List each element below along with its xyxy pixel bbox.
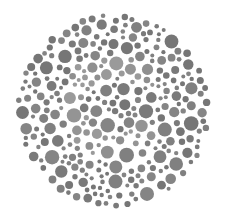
- plate-dot: [39, 158, 43, 162]
- plate-dot: [119, 148, 134, 163]
- plate-dot: [186, 135, 193, 142]
- plate-dot: [67, 108, 81, 122]
- plate-dot: [181, 108, 186, 113]
- plate-dot: [69, 73, 76, 80]
- plate-dot: [77, 78, 81, 82]
- plate-dot: [95, 200, 101, 206]
- plate-dot: [169, 107, 179, 117]
- plate-dot: [92, 129, 102, 139]
- plate-dot: [96, 96, 101, 101]
- plate-dot: [117, 83, 129, 95]
- plate-dot: [122, 173, 127, 178]
- plate-dot: [67, 161, 72, 166]
- plate-dot: [98, 46, 102, 50]
- plate-dot: [121, 42, 133, 54]
- plate-dot: [169, 157, 183, 171]
- plate-dot: [184, 116, 199, 131]
- plate-dot: [86, 142, 94, 150]
- plate-dot: [159, 96, 163, 100]
- plate-dot: [55, 77, 59, 81]
- plate-dot: [154, 146, 158, 150]
- plate-dot: [198, 91, 204, 97]
- plate-dot: [78, 38, 88, 48]
- plate-dot: [39, 114, 48, 123]
- plate-dot: [161, 50, 165, 54]
- plate-dot: [202, 85, 208, 91]
- plate-dot: [171, 78, 177, 84]
- plate-dot: [183, 59, 193, 69]
- plate-dot: [180, 81, 185, 86]
- plate-dot: [113, 18, 119, 24]
- plate-dot: [195, 145, 200, 150]
- plate-dot: [91, 185, 96, 190]
- plate-dot: [162, 144, 167, 149]
- plate-dot: [109, 39, 119, 49]
- plate-dot: [134, 87, 142, 95]
- plate-dot: [100, 180, 105, 185]
- plate-dot: [154, 150, 167, 163]
- plate-dot: [144, 49, 149, 54]
- plate-dot: [101, 69, 112, 80]
- plate-dot: [162, 28, 166, 32]
- plate-dot: [44, 123, 55, 134]
- plate-dot: [31, 115, 35, 119]
- plate-dot: [42, 51, 47, 56]
- plate-dot: [16, 106, 29, 119]
- plate-dot: [29, 152, 39, 162]
- plate-dot: [165, 174, 176, 185]
- plate-dot: [134, 42, 140, 48]
- plate-dot: [172, 91, 182, 101]
- plate-dot: [67, 134, 71, 138]
- plate-dot: [65, 181, 73, 189]
- plate-dot: [189, 160, 194, 165]
- plate-dot: [78, 152, 83, 157]
- plate-dot: [36, 145, 40, 149]
- plate-dot: [91, 151, 95, 155]
- plate-dot: [113, 203, 119, 209]
- plate-dot: [129, 191, 134, 196]
- plate-dot: [80, 104, 89, 113]
- plate-dot: [75, 32, 80, 37]
- plate-dot: [164, 95, 168, 99]
- plate-dot: [125, 183, 129, 187]
- plate-dot: [115, 77, 119, 81]
- plate-dot: [49, 36, 56, 43]
- plate-dot: [112, 83, 117, 88]
- plate-dot: [111, 135, 115, 139]
- plate-dot: [79, 178, 88, 187]
- plate-dot: [157, 67, 163, 73]
- plate-dot: [171, 66, 179, 74]
- plate-dot: [130, 80, 135, 85]
- plate-dot: [97, 143, 101, 147]
- plate-dot: [57, 98, 62, 103]
- plate-dot: [143, 37, 148, 42]
- plate-dot: [75, 64, 82, 71]
- plate-dot: [194, 153, 199, 158]
- plate-dot: [55, 165, 67, 177]
- plate-dot: [203, 125, 209, 131]
- plate-dot: [73, 82, 77, 86]
- plate-dot: [80, 168, 85, 173]
- plate-dot: [175, 86, 180, 91]
- color-vision-plate: [0, 0, 225, 223]
- plate-dot: [52, 135, 64, 147]
- plate-dot: [144, 77, 151, 84]
- plate-dot: [157, 181, 166, 190]
- plate-dot: [45, 76, 50, 81]
- plate-dot: [166, 149, 171, 154]
- plate-dot: [166, 137, 175, 146]
- plate-dot: [49, 176, 57, 184]
- plate-dot: [103, 135, 108, 140]
- plate-dot: [129, 33, 137, 41]
- plate-dot: [158, 123, 172, 137]
- plate-dot: [129, 129, 133, 133]
- plate-dot: [121, 35, 125, 39]
- plate-dot: [34, 127, 39, 132]
- plate-dot: [33, 89, 37, 93]
- plate-dot: [93, 192, 98, 197]
- plate-dot: [146, 92, 157, 103]
- plate-dot: [23, 142, 28, 147]
- plate-dot: [180, 170, 186, 176]
- plate-dot: [107, 107, 111, 111]
- plate-dot: [185, 82, 197, 94]
